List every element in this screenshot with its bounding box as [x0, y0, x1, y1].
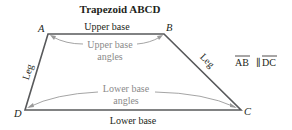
left-leg-label: Leg: [20, 63, 35, 81]
lower-angles-line1: Lower base: [103, 83, 150, 94]
vertex-a-label: A: [37, 23, 45, 34]
lower-right-angle-arrow: [155, 92, 235, 107]
parallel-statement: AB ∥ DC: [235, 56, 277, 68]
lower-left-angle-arrow: [29, 92, 98, 107]
upper-angles-line2: angles: [97, 51, 123, 62]
trapezoid-diagram: Trapezoid ABCD A B C D Upper base Lower …: [0, 0, 292, 130]
right-leg-label: Leg: [198, 51, 217, 70]
lower-angles-line2: angles: [113, 95, 139, 106]
upper-right-angle-arrow: [137, 37, 160, 44]
arrowhead-icon: [50, 35, 56, 40]
parallel-symbol: ∥: [256, 57, 261, 68]
segment-dc: DC: [262, 57, 276, 68]
upper-base-label: Upper base: [84, 21, 130, 32]
vertex-b-label: B: [166, 22, 173, 33]
segment-ab: AB: [235, 57, 249, 68]
arrowhead-icon: [157, 35, 163, 40]
arrowhead-icon: [27, 103, 34, 108]
upper-angles-line1: Upper base: [87, 39, 133, 50]
lower-base-label: Lower base: [110, 115, 157, 126]
vertex-d-label: D: [13, 108, 22, 119]
upper-left-angle-arrow: [53, 37, 83, 44]
diagram-svg: Trapezoid ABCD A B C D Upper base Lower …: [0, 0, 292, 130]
vertex-c-label: C: [244, 106, 252, 117]
diagram-title: Trapezoid ABCD: [80, 3, 161, 15]
